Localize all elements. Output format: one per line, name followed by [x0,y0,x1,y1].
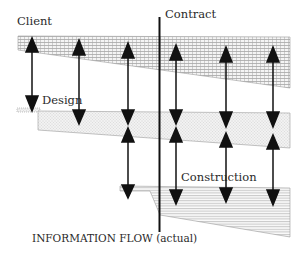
contract-label: Contract [165,9,216,21]
construction-label: Construction [181,172,257,184]
diagram-caption: INFORMATION FLOW (actual) [32,233,197,244]
design-label: Design [42,95,82,107]
information-flow-diagram [0,0,305,255]
design-band [17,108,290,148]
construction-band [120,186,290,237]
client-band [18,36,290,88]
client-label: Client [17,16,52,28]
